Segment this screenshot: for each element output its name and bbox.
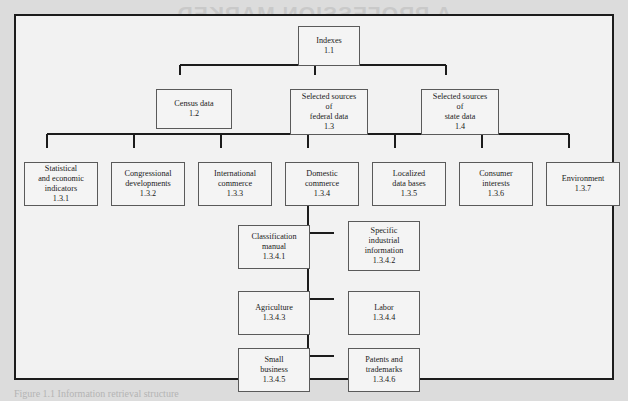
node-label-classification-manual: Classification manual 1.3.4.1	[249, 232, 298, 263]
node-labor[interactable]: Labor 1.3.4.4	[348, 291, 420, 335]
node-label-agriculture: Agriculture 1.3.4.3	[253, 303, 295, 323]
node-label-patents-trademarks: Patents and trademarks 1.3.4.6	[363, 355, 405, 386]
node-agriculture[interactable]: Agriculture 1.3.4.3	[238, 291, 310, 335]
node-consumer-interests[interactable]: Consumer interests 1.3.6	[459, 162, 533, 206]
node-label-congressional: Congressional developments 1.3.2	[123, 169, 174, 200]
node-small-business[interactable]: Small business 1.3.4.5	[238, 348, 310, 392]
node-label-census-data: Census data 1.2	[172, 99, 215, 119]
node-patents-trademarks[interactable]: Patents and trademarks 1.3.4.6	[348, 348, 420, 392]
node-label-labor: Labor 1.3.4.4	[371, 303, 398, 323]
node-label-international-commerce: International commerce 1.3.3	[212, 169, 258, 200]
node-label-localized-data-bases: Localized data bases 1.3.5	[390, 169, 427, 200]
node-classification-manual[interactable]: Classification manual 1.3.4.1	[238, 225, 310, 269]
node-localized-data-bases[interactable]: Localized data bases 1.3.5	[372, 162, 446, 206]
node-statistical-indicators[interactable]: Statistical and economic indicators 1.3.…	[24, 162, 98, 206]
node-environment[interactable]: Environment 1.3.7	[546, 162, 620, 206]
node-label-statistical-indicators: Statistical and economic indicators 1.3.…	[36, 164, 86, 205]
node-congressional[interactable]: Congressional developments 1.3.2	[111, 162, 185, 206]
node-label-small-business: Small business 1.3.4.5	[258, 355, 290, 386]
node-label-state-data: Selected sources of state data 1.4	[431, 92, 489, 133]
node-international-commerce[interactable]: International commerce 1.3.3	[198, 162, 272, 206]
node-label-consumer-interests: Consumer interests 1.3.6	[477, 169, 515, 200]
node-specific-industrial[interactable]: Specific industrial information 1.3.4.2	[348, 221, 420, 271]
node-census-data[interactable]: Census data 1.2	[156, 89, 232, 129]
node-domestic-commerce[interactable]: Domestic commerce 1.3.4	[285, 162, 359, 206]
node-label-specific-industrial: Specific industrial information 1.3.4.2	[363, 226, 406, 267]
figure-frame: Indexes 1.1Census data 1.2Selected sourc…	[14, 14, 614, 380]
node-state-data[interactable]: Selected sources of state data 1.4	[421, 89, 499, 135]
figure-caption: Figure 1.1 Information retrieval structu…	[14, 388, 574, 400]
node-label-indexes: Indexes 1.1	[314, 36, 343, 56]
node-label-environment: Environment 1.3.7	[560, 174, 607, 194]
node-indexes[interactable]: Indexes 1.1	[298, 26, 360, 66]
node-label-federal-data: Selected sources of federal data 1.3	[300, 92, 358, 133]
node-label-domestic-commerce: Domestic commerce 1.3.4	[303, 169, 341, 200]
node-federal-data[interactable]: Selected sources of federal data 1.3	[290, 89, 368, 135]
